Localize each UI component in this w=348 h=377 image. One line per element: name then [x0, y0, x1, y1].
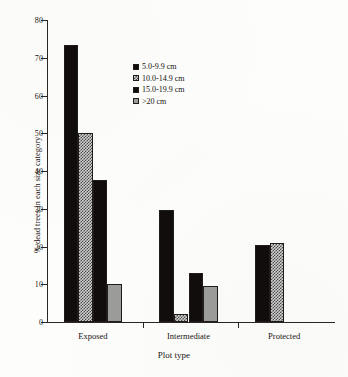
- bar-intermediate-series-3: [189, 273, 204, 322]
- plot-area: [47, 20, 334, 322]
- legend-swatch-icon: [133, 75, 139, 81]
- bar-intermediate-series-2: [174, 314, 189, 322]
- legend-item: 10.0-14.9 cm: [133, 74, 184, 83]
- chart-figure: 01020304050607080 ExposedIntermediatePro…: [0, 0, 348, 377]
- legend-label: 15.0-19.9 cm: [142, 85, 184, 94]
- bar-intermediate-series-4: [203, 286, 218, 322]
- legend-swatch-icon: [133, 87, 139, 93]
- y-axis-tick-label: 0: [39, 318, 43, 327]
- legend-item: 15.0-19.9 cm: [133, 85, 184, 94]
- legend-item: >20 cm: [133, 97, 184, 106]
- x-axis-category-label: Exposed: [78, 331, 107, 341]
- bar-protected-series-1: [255, 245, 270, 322]
- legend-label: 5.0-9.9 cm: [142, 62, 176, 71]
- x-axis-category-label: Intermediate: [167, 331, 210, 341]
- chart-legend: 5.0-9.9 cm10.0-14.9 cm15.0-19.9 cm>20 cm: [133, 62, 184, 106]
- bar-exposed-series-3: [93, 180, 108, 322]
- bar-intermediate-series-1: [159, 210, 174, 322]
- y-axis-tick-label: 80: [35, 16, 43, 25]
- x-axis-tick: [143, 322, 144, 328]
- bar-exposed-series-1: [64, 45, 79, 322]
- bar-exposed-series-4: [107, 284, 122, 323]
- x-axis-line: [47, 322, 335, 323]
- x-axis-tick: [238, 322, 239, 328]
- x-axis-category-label: Protected: [268, 331, 300, 341]
- y-axis-title: % dead trees in each size category: [32, 90, 42, 300]
- bar-protected-series-2: [270, 243, 285, 322]
- legend-swatch-icon: [133, 64, 139, 70]
- y-axis-tick-label: 70: [35, 53, 43, 62]
- legend-label: 10.0-14.9 cm: [142, 74, 184, 83]
- legend-item: 5.0-9.9 cm: [133, 62, 184, 71]
- legend-swatch-icon: [133, 98, 139, 104]
- x-axis-title: Plot type: [0, 350, 348, 360]
- legend-label: >20 cm: [142, 97, 166, 106]
- bar-exposed-series-2: [78, 133, 93, 322]
